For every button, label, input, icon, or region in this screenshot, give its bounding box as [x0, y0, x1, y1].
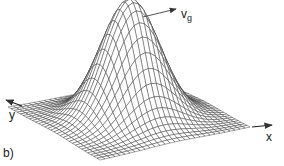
velocity-label: vg: [181, 8, 192, 23]
surface-mesh: [8, 0, 250, 160]
group-velocity-arrow-icon: [143, 9, 176, 17]
y-axis-arrow-icon: [6, 100, 22, 106]
x-axis-label: x: [266, 131, 272, 143]
velocity-label-subscript: g: [187, 13, 192, 23]
gaussian-surface-plot: [0, 0, 284, 166]
y-axis-label: y: [9, 109, 15, 121]
x-axis-arrow-icon: [252, 125, 272, 127]
panel-label: b): [3, 147, 14, 159]
